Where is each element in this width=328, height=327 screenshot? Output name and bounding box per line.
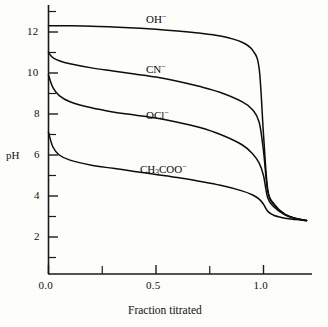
x-tick-label: 0.0 — [39, 279, 53, 291]
y-tick-label: 12 — [27, 25, 38, 37]
y-tick-label: 10 — [27, 66, 38, 78]
curve-label-acetate: CH3COO− — [140, 163, 187, 175]
curve-OCl⁻ — [49, 75, 307, 221]
titration-curve-figure: 24681012 0.00.51.0 pH Fraction titrated … — [0, 0, 328, 327]
x-axis-ticks — [49, 265, 264, 274]
curve-group — [49, 26, 307, 221]
y-tick-label: 2 — [34, 230, 40, 242]
curve-label-hydroxide: OH− — [146, 13, 166, 25]
y-tick-label: 6 — [34, 148, 40, 160]
y-tick-label: 8 — [34, 107, 40, 119]
curve-label-cyanide: CN− — [146, 63, 166, 75]
axes-group — [48, 5, 312, 274]
y-axis-label: pH — [6, 149, 19, 161]
x-tick-label: 0.5 — [146, 279, 160, 291]
y-tick-label: 4 — [34, 189, 40, 201]
x-axis-label: Fraction titrated — [128, 304, 202, 316]
x-tick-label: 1.0 — [254, 279, 268, 291]
y-axis-ticks — [49, 12, 59, 258]
curve-CH₃COO⁻ — [49, 132, 307, 220]
curve-label-hypochlorite: OCl− — [146, 109, 169, 121]
